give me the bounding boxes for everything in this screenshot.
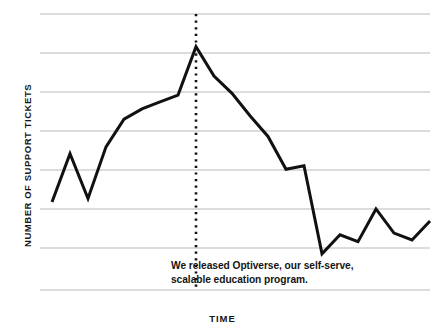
x-axis-label: TIME	[0, 313, 445, 324]
y-axis-label: NUMBER OF SUPPORT TICKETS	[22, 47, 33, 247]
line-chart: NUMBER OF SUPPORT TICKETS TIME We releas…	[0, 0, 445, 334]
annotation-line-1: We released Optiverse, our self-serve,	[171, 259, 426, 273]
annotation-line-2: scalable education program.	[171, 273, 426, 287]
gridline-group	[40, 14, 430, 290]
event-annotation-text: We released Optiverse, our self-serve, s…	[171, 259, 426, 287]
data-series-line	[52, 47, 430, 254]
